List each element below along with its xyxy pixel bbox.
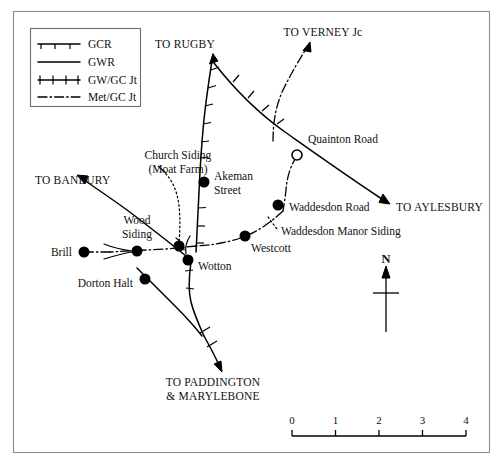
station-label-wood-siding-line1: Wood xyxy=(123,214,150,226)
destination-label-paddington-line2: & MARYLEBONE xyxy=(166,390,259,402)
station-marker-wotton-tramway[interactable] xyxy=(174,241,185,252)
scale-bar: 0 1 2 3 4 xyxy=(289,414,469,436)
station-label-brill: Brill xyxy=(51,246,72,258)
map-canvas: GCR GWR GW/GC Jt Met/GC Jt xyxy=(0,0,503,469)
station-label-church-siding-line1: Church Siding xyxy=(145,149,212,162)
church-siding-line xyxy=(158,166,180,245)
scale-tick-2: 2 xyxy=(376,414,382,426)
scale-tick-4: 4 xyxy=(463,414,469,426)
station-marker-akeman-street[interactable] xyxy=(199,177,210,188)
station-label-church-siding-line2: (Moat Farm) xyxy=(148,163,207,176)
north-arrow-label: N xyxy=(381,252,390,266)
station-label-westcott: Westcott xyxy=(251,242,292,254)
scale-tick-3: 3 xyxy=(420,414,426,426)
station-label-quainton-road: Quainton Road xyxy=(308,133,378,145)
station-label-akeman-street-line2: Street xyxy=(214,184,242,196)
scale-tick-1: 1 xyxy=(333,414,339,426)
station-marker-waddesdon-road[interactable] xyxy=(273,200,284,211)
destination-label-rugby: TO RUGBY xyxy=(155,38,215,50)
gwgc-line-paddington xyxy=(185,262,222,372)
station-marker-wotton[interactable] xyxy=(183,255,194,266)
scale-tick-0: 0 xyxy=(289,414,295,426)
arrowhead-to-verney xyxy=(303,42,311,52)
north-arrow: N xyxy=(373,252,399,332)
station-marker-dorton-halt[interactable] xyxy=(140,274,151,285)
station-label-wotton: Wotton xyxy=(198,260,232,272)
arrowhead-to-paddington xyxy=(214,361,222,372)
destination-label-paddington-line1: TO PADDINGTON xyxy=(166,376,261,388)
destination-label-verney: TO VERNEY Jc xyxy=(284,26,363,38)
legend-label-gcr: GCR xyxy=(88,38,112,50)
legend-label-gwr: GWR xyxy=(88,56,115,68)
station-label-waddesdon-manor-siding: Waddesdon Manor Siding xyxy=(281,225,401,238)
legend-label-gwgc: GW/GC Jt xyxy=(88,74,138,86)
metgc-line-verney xyxy=(273,42,311,141)
station-marker-wood-siding[interactable] xyxy=(132,246,143,257)
arrowhead-to-aylesbury xyxy=(379,194,390,204)
station-marker-quainton-road[interactable] xyxy=(292,150,302,160)
station-marker-brill[interactable] xyxy=(79,247,90,258)
legend-label-metgc: Met/GC Jt xyxy=(88,91,137,103)
station-marker-westcott[interactable] xyxy=(240,231,251,242)
north-arrowhead xyxy=(382,266,390,278)
station-label-dorton-halt: Dorton Halt xyxy=(78,277,134,289)
station-label-wood-siding-line2: Siding xyxy=(122,228,152,241)
station-label-waddesdon-road: Waddesdon Road xyxy=(289,201,370,213)
railway-map: GCR GWR GW/GC Jt Met/GC Jt xyxy=(0,0,503,469)
station-label-akeman-street-line1: Akeman xyxy=(214,170,253,182)
legend: GCR GWR GW/GC Jt Met/GC Jt xyxy=(31,29,141,107)
destination-label-aylesbury: TO AYLESBURY xyxy=(396,201,484,213)
destination-label-banbury: TO BANBURY xyxy=(35,174,111,186)
